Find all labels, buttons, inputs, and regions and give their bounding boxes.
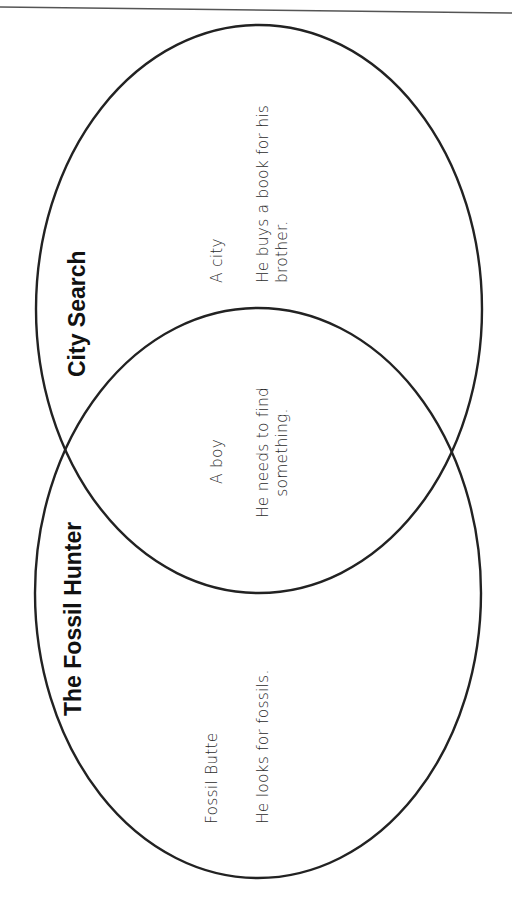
city-search-title: City Search (64, 250, 90, 377)
header-rule (0, 7, 512, 13)
fossil-hunter-event: He looks for fossils. (254, 669, 273, 824)
overlap-character: A boy (208, 439, 227, 484)
fossil-hunter-title: The Fossil Hunter (60, 522, 86, 716)
city-search-event: He buys a book for his brother. (254, 105, 292, 283)
overlap-event-line-1: He needs to find (254, 381, 273, 524)
fossil-hunter-event-line-1: He looks for fossils. (254, 669, 273, 824)
city-search-event-line-2: brother. (273, 105, 292, 283)
overlap-event: He needs to find something. (254, 381, 292, 524)
city-search-event-line-1: He buys a book for his (254, 105, 273, 283)
fossil-hunter-setting: Fossil Butte (203, 732, 222, 824)
city-search-setting: A city (208, 238, 227, 283)
overlap-event-line-2: something. (273, 381, 292, 524)
